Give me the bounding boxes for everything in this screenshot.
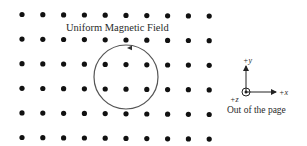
field-dot-icon — [103, 136, 108, 141]
field-dot-icon — [61, 86, 66, 91]
y-axis-label: +y — [243, 56, 252, 65]
field-dot-icon — [61, 111, 66, 116]
field-dot-icon — [144, 62, 149, 67]
loop-direction-arrow-icon — [127, 46, 132, 51]
field-dot-icon — [40, 135, 45, 140]
field-dot-icon — [186, 38, 191, 43]
field-dot-icon — [82, 37, 87, 42]
field-dot-icon — [186, 13, 191, 18]
field-dot-icon — [40, 12, 45, 17]
field-dot-icon — [123, 37, 128, 42]
field-dot-icon — [82, 62, 87, 67]
field-dot-icon — [19, 86, 24, 91]
field-dot-icon — [186, 87, 191, 92]
field-dot-icon — [82, 111, 87, 116]
field-dot-icon — [40, 61, 45, 66]
field-dot-icon — [103, 37, 108, 42]
field-dot-icon — [82, 86, 87, 91]
field-dot-icon — [207, 137, 212, 142]
field-dot-icon — [165, 87, 170, 92]
field-dot-icon — [144, 13, 149, 18]
field-dot-icon — [207, 112, 212, 117]
field-dot-icon — [82, 135, 87, 140]
field-dot-icon — [61, 12, 66, 17]
field-dot-icon — [207, 87, 212, 92]
field-dot-icon — [207, 38, 212, 43]
field-dot-icon — [123, 111, 128, 116]
axis-indicator: +y +x +z Out of the page — [227, 56, 288, 115]
field-dot-icon — [186, 136, 191, 141]
current-loop — [94, 45, 158, 109]
field-dot-icon — [165, 13, 170, 18]
field-dot-icon — [123, 13, 128, 18]
field-dot-icon — [207, 63, 212, 68]
field-dot-icon — [103, 86, 108, 91]
field-dot-icon — [61, 135, 66, 140]
field-dot-icon — [103, 62, 108, 67]
x-axis-label: +x — [279, 88, 288, 97]
field-dot-icon — [165, 112, 170, 117]
field-dot-icon — [82, 12, 87, 17]
field-dot-icon — [144, 111, 149, 116]
axis-caption: Out of the page — [227, 105, 286, 115]
z-axis-label: +z — [230, 95, 239, 104]
z-axis-dot-icon — [245, 91, 248, 94]
field-dot-icon — [40, 37, 45, 42]
field-dot-icon — [165, 38, 170, 43]
field-dot-icon — [19, 37, 24, 42]
field-dot-icon — [19, 110, 24, 115]
field-dot-icon — [144, 136, 149, 141]
field-dot-icon — [207, 14, 212, 19]
field-dot-icon — [123, 62, 128, 67]
field-dot-icon — [103, 13, 108, 18]
field-dot-icon — [123, 87, 128, 92]
field-dot-icon — [103, 111, 108, 116]
diagram-title: Uniform Magnetic Field — [66, 22, 169, 33]
field-dot-icon — [165, 136, 170, 141]
field-dot-icon — [19, 135, 24, 140]
field-dot-icon — [40, 111, 45, 116]
field-dot-icon — [186, 63, 191, 68]
field-dot-icon — [165, 62, 170, 67]
field-dot-icon — [144, 87, 149, 92]
field-dot-icon — [40, 86, 45, 91]
field-dot-icon — [123, 136, 128, 141]
field-dot-icon — [186, 112, 191, 117]
field-dot-icon — [61, 37, 66, 42]
field-dot-icon — [19, 12, 24, 17]
field-dot-icon — [19, 61, 24, 66]
field-dot-icon — [144, 38, 149, 43]
loop-circle — [94, 45, 158, 109]
field-dot-icon — [61, 62, 66, 67]
magnetic-field-diagram: Uniform Magnetic Field +y +x +z Out of t… — [0, 0, 307, 146]
